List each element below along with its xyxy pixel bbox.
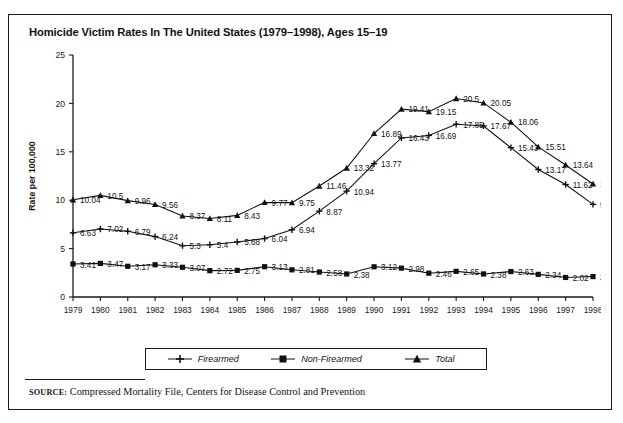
triangle-marker-icon <box>234 212 240 218</box>
data-point-label: 2.63 <box>518 268 534 277</box>
series-non-firearmed: 3.413.473.173.333.072.722.753.132.812.58… <box>70 260 601 283</box>
x-tick-label: 1979 <box>64 305 83 315</box>
square-marker-icon <box>270 353 296 365</box>
data-point-label: 6.94 <box>299 226 315 235</box>
y-tick-label: 5 <box>60 244 65 254</box>
data-point-label: 3.12 <box>381 263 397 272</box>
data-point-label: 3.07 <box>189 264 205 273</box>
triangle-marker-icon <box>562 162 568 168</box>
square-marker-icon <box>481 271 486 276</box>
data-point-label: 9.77 <box>272 199 288 208</box>
x-tick-label: 1980 <box>91 305 110 315</box>
data-point-label: 11.46 <box>326 182 346 191</box>
data-point-label: 17.85 <box>463 121 484 130</box>
square-marker-icon <box>289 267 294 272</box>
data-point-label: 2.72 <box>217 267 233 276</box>
square-marker-icon <box>125 264 130 269</box>
data-point-label: 9.75 <box>299 199 315 208</box>
legend-item-total[interactable]: Total <box>373 353 486 365</box>
x-tick-label: 1990 <box>365 305 384 315</box>
data-point-label: 3.47 <box>107 260 123 269</box>
square-marker-icon <box>262 264 267 269</box>
x-tick-label: 1989 <box>337 305 356 315</box>
legend-label-total: Total <box>435 354 454 364</box>
square-marker-icon <box>207 268 212 273</box>
square-marker-icon <box>508 269 513 274</box>
data-point-label: 2.98 <box>408 265 424 274</box>
x-tick-label: 1998 <box>584 305 601 315</box>
x-tick-label: 1994 <box>474 305 493 315</box>
data-point-label: 5.3 <box>189 242 201 251</box>
data-point-label: 2.65 <box>463 268 479 277</box>
data-point-label: 6.63 <box>80 229 96 238</box>
data-point-label: 2.46 <box>436 270 452 279</box>
y-tick-label: 15 <box>55 147 65 157</box>
data-point-label: 7.02 <box>107 225 123 234</box>
data-point-label: 6.24 <box>162 233 178 242</box>
data-point-label: 18.06 <box>518 118 539 127</box>
x-tick-label: 1988 <box>310 305 329 315</box>
y-tick-label: 20 <box>55 99 65 109</box>
data-point-label: 8.11 <box>217 215 233 224</box>
data-point-label: 9.56 <box>162 201 178 210</box>
square-marker-icon <box>536 272 541 277</box>
triangle-marker-icon <box>453 95 459 101</box>
y-tick-label: 10 <box>55 195 65 205</box>
triangle-marker-icon <box>316 183 322 189</box>
data-point-label: 15.51 <box>545 143 566 152</box>
x-tick-label: 1995 <box>502 305 521 315</box>
data-point-label: 11.68 <box>600 180 601 189</box>
data-point-label: 8.87 <box>326 208 342 217</box>
data-point-label: 2.34 <box>545 271 561 280</box>
data-point-label: 20.5 <box>463 95 479 104</box>
series-total: 10.0410.59.969.568.378.118.439.779.7511.… <box>70 95 601 224</box>
data-point-label: 13.64 <box>573 161 594 170</box>
x-tick-label: 1982 <box>146 305 165 315</box>
legend-item-non-firearmed[interactable]: Non-Firearmed <box>259 353 372 365</box>
square-marker-icon <box>98 261 103 266</box>
data-point-label: 3.33 <box>162 261 178 270</box>
square-marker-icon <box>590 274 595 279</box>
data-point-label: 3.41 <box>80 261 96 270</box>
x-tick-label: 1981 <box>118 305 137 315</box>
square-marker-icon <box>180 265 185 270</box>
data-point-label: 3.13 <box>272 263 288 272</box>
data-point-label: 6.04 <box>272 235 288 244</box>
figure-frame: Homicide Victim Rates In The United Stat… <box>8 14 612 410</box>
source-divider <box>25 379 145 380</box>
square-marker-icon <box>371 264 376 269</box>
data-point-label: 20.05 <box>491 99 512 108</box>
square-marker-icon <box>153 262 158 267</box>
data-point-label: 2.58 <box>326 269 342 278</box>
square-marker-icon <box>317 269 322 274</box>
chart-plot-area: 0510152025Rate per 100,00019791980198119… <box>21 45 601 345</box>
legend-label-firearmed: Firearmed <box>198 354 239 364</box>
x-tick-label: 1986 <box>255 305 274 315</box>
data-point-label: 9.57 <box>600 201 601 210</box>
data-point-label: 5.4 <box>217 241 229 250</box>
source-keyword: SOURCE: <box>29 388 67 397</box>
data-point-label: 10.5 <box>107 192 123 201</box>
data-point-label: 2.38 <box>491 271 507 280</box>
legend-label-non-firearmed: Non-Firearmed <box>301 354 362 364</box>
data-point-label: 19.15 <box>436 108 457 117</box>
legend-item-firearmed[interactable]: Firearmed <box>146 353 259 365</box>
source-text: Compressed Mortality File, Centers for D… <box>67 386 365 397</box>
data-point-label: 2.11 <box>600 273 601 282</box>
data-point-label: 19.41 <box>408 105 429 114</box>
data-point-label: 2.81 <box>299 266 315 275</box>
y-tick-label: 25 <box>55 50 65 60</box>
data-point-label: 2.38 <box>354 271 370 280</box>
data-point-label: 8.43 <box>244 212 260 221</box>
square-marker-icon <box>426 271 431 276</box>
y-tick-label: 0 <box>60 292 65 302</box>
x-tick-label: 1997 <box>556 305 575 315</box>
square-marker-icon <box>563 275 568 280</box>
plus-marker-icon <box>167 353 193 365</box>
data-point-label: 2.02 <box>573 274 589 283</box>
square-marker-icon <box>454 269 459 274</box>
chart-legend: Firearmed Non-Firearmed Total <box>145 348 487 370</box>
square-marker-icon <box>235 268 240 273</box>
x-tick-label: 1991 <box>392 305 411 315</box>
data-point-label: 16.89 <box>381 130 402 139</box>
